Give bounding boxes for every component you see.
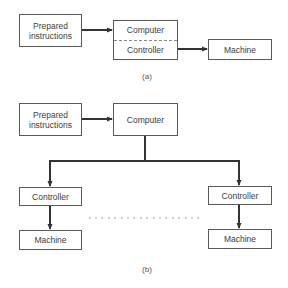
b-controller-right-label: Controller — [222, 191, 259, 201]
a-computer-controller-box: Computer Controller — [113, 20, 178, 60]
a-machine-label: Machine — [224, 45, 256, 55]
b-computer-label: Computer — [127, 115, 164, 125]
a-computer-section: Computer — [114, 21, 177, 41]
a-controller-section: Controller — [114, 41, 177, 60]
b-controller-right-box: Controller — [208, 186, 272, 205]
a-prepared-instructions-label: Prepared instructions — [26, 21, 76, 41]
a-machine-box: Machine — [208, 39, 272, 60]
b-machine-right-box: Machine — [208, 229, 272, 249]
caption-a: (a) — [127, 72, 167, 81]
b-machine-right-label: Machine — [224, 234, 256, 244]
b-prepared-instructions-label: Prepared instructions — [26, 110, 76, 130]
b-prepared-instructions-box: Prepared instructions — [19, 103, 82, 136]
b-computer-box: Computer — [113, 103, 178, 136]
a-prepared-instructions-box: Prepared instructions — [19, 14, 82, 47]
b-machine-left-label: Machine — [34, 235, 66, 245]
b-controller-left-box: Controller — [19, 187, 82, 206]
caption-b: (b) — [127, 265, 167, 274]
b-machine-left-box: Machine — [19, 230, 82, 250]
b-controller-left-label: Controller — [32, 192, 69, 202]
